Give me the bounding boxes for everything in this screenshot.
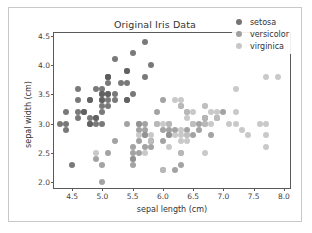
data-point: [142, 150, 148, 156]
data-point: [190, 109, 196, 115]
data-point: [75, 109, 81, 115]
data-point: [160, 97, 166, 103]
y-axis-tick: [51, 124, 54, 125]
data-point: [105, 150, 111, 156]
x-axis-tick-label: 6.5: [187, 192, 199, 201]
x-axis-tick: [102, 188, 103, 191]
data-point: [63, 121, 69, 127]
data-point: [130, 144, 136, 150]
legend-marker-icon: [236, 19, 242, 25]
data-point: [99, 179, 105, 185]
y-axis-tick: [51, 182, 54, 183]
legend-label: virginica: [250, 42, 284, 51]
data-point: [184, 138, 190, 144]
x-axis-tick-label: 6.0: [157, 192, 169, 201]
y-axis-tick: [51, 65, 54, 66]
data-point: [63, 127, 69, 133]
legend-item-setosa: setosa: [236, 16, 289, 28]
data-point: [184, 132, 190, 138]
data-point: [178, 150, 184, 156]
data-point: [112, 56, 118, 62]
data-point: [263, 144, 269, 150]
x-axis-tick: [223, 188, 224, 191]
x-axis-tick-label: 5.5: [127, 192, 139, 201]
data-point: [275, 74, 281, 80]
data-point: [263, 132, 269, 138]
data-point: [130, 162, 136, 168]
y-axis-label: sepal width (cm): [24, 60, 33, 170]
data-point: [93, 115, 99, 121]
x-axis-tick: [284, 188, 285, 191]
x-axis-tick-label: 5.0: [96, 192, 108, 201]
data-point: [105, 74, 111, 80]
data-point: [190, 132, 196, 138]
data-point: [233, 121, 239, 127]
plot-axes: 4.55.05.56.06.57.07.58.02.02.53.03.54.04…: [53, 32, 291, 189]
y-axis-tick-label: 3.5: [38, 90, 50, 99]
y-axis-tick: [51, 94, 54, 95]
data-point: [99, 91, 105, 97]
data-point: [208, 121, 214, 127]
x-axis-tick: [254, 188, 255, 191]
data-point: [166, 144, 172, 150]
x-axis-label: sepal length (cm): [53, 205, 291, 214]
data-point: [263, 74, 269, 80]
data-point: [233, 86, 239, 92]
data-point: [245, 132, 251, 138]
figure-canvas: Original Iris Data sepal width (cm) sepa…: [8, 7, 302, 222]
data-point: [220, 109, 226, 115]
data-point: [105, 103, 111, 109]
y-axis-tick-label: 2.5: [38, 148, 50, 157]
data-point: [160, 127, 166, 133]
data-point: [118, 80, 124, 86]
legend-item-virginica: virginica: [236, 40, 289, 52]
data-point: [136, 132, 142, 138]
x-axis-tick: [193, 188, 194, 191]
data-point: [87, 121, 93, 127]
data-point: [196, 127, 202, 133]
data-point: [178, 103, 184, 109]
data-point: [130, 150, 136, 156]
scatter-plot-area: [54, 33, 290, 188]
data-point: [124, 80, 130, 86]
data-point: [69, 162, 75, 168]
data-point: [202, 121, 208, 127]
legend: setosaversicolorvirginica: [232, 14, 293, 54]
data-point: [130, 50, 136, 56]
x-axis-tick: [163, 188, 164, 191]
x-axis-tick: [72, 188, 73, 191]
y-axis-tick: [51, 36, 54, 37]
y-axis-tick-label: 4.5: [38, 31, 50, 40]
data-point: [124, 68, 130, 74]
data-point: [124, 97, 130, 103]
data-point: [142, 39, 148, 45]
y-axis-tick-label: 4.0: [38, 61, 50, 70]
data-point: [190, 121, 196, 127]
data-point: [105, 80, 111, 86]
data-point: [99, 162, 105, 168]
data-point: [178, 132, 184, 138]
data-point: [172, 167, 178, 173]
data-point: [208, 109, 214, 115]
data-point: [214, 115, 220, 121]
data-point: [202, 103, 208, 109]
data-point: [99, 109, 105, 115]
data-point: [81, 109, 87, 115]
data-point: [112, 138, 118, 144]
legend-marker-icon: [236, 31, 242, 37]
x-axis-tick-label: 7.0: [217, 192, 229, 201]
data-point: [160, 167, 166, 173]
legend-item-versicolor: versicolor: [236, 28, 289, 40]
data-point: [172, 97, 178, 103]
data-point: [112, 97, 118, 103]
y-axis-tick-label: 2.0: [38, 178, 50, 187]
x-axis-tick-label: 7.5: [248, 192, 260, 201]
data-point: [63, 109, 69, 115]
legend-marker-icon: [236, 43, 242, 49]
data-point: [93, 156, 99, 162]
data-point: [148, 62, 154, 68]
data-point: [239, 127, 245, 133]
data-point: [75, 97, 81, 103]
data-point: [160, 138, 166, 144]
data-point: [263, 121, 269, 127]
